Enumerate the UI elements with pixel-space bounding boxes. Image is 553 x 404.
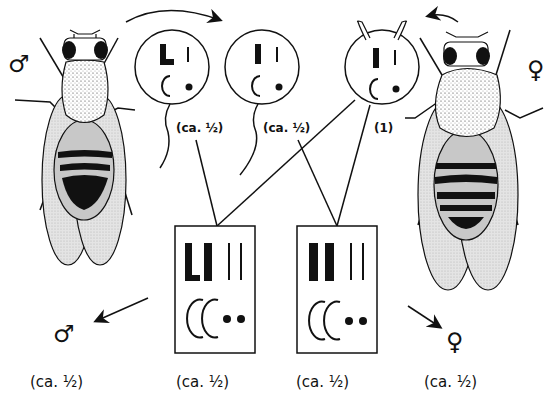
cross-diagram [0, 0, 553, 404]
zygote-female-box [297, 226, 377, 353]
zygote-female-fraction: (ca. ½) [296, 373, 349, 391]
egg-fraction: (1) [374, 121, 393, 135]
female-symbol-bottom: ♀ [446, 330, 464, 354]
sperm-1-fraction: (ca. ½) [176, 121, 223, 135]
male-symbol-top: ♂ [8, 52, 30, 76]
egg-gamete [345, 21, 419, 104]
arrow-to-male-offspring [96, 298, 148, 321]
female-offspring-fraction: (ca. ½) [424, 373, 477, 391]
cross-lines [196, 100, 370, 226]
arrow-female-to-egg [428, 15, 458, 22]
female-symbol-top: ♀ [527, 58, 545, 82]
male-offspring-fraction: (ca. ½) [30, 373, 83, 391]
zygote-male-box [175, 226, 255, 353]
male-symbol-bottom: ♂ [53, 322, 75, 346]
arrow-to-female-offspring [408, 306, 440, 327]
sperm-2-fraction: (ca. ½) [263, 121, 310, 135]
arrow-male-to-sperm [126, 10, 220, 22]
zygote-male-fraction: (ca. ½) [176, 373, 229, 391]
male-fly [15, 30, 135, 265]
female-fly [405, 30, 543, 290]
sperm-gamete-2 [225, 30, 299, 175]
